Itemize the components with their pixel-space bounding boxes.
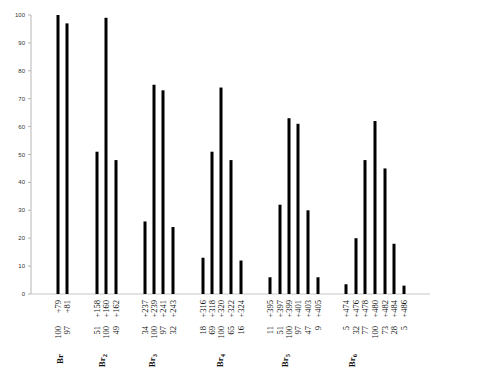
intensity-label: 100 <box>370 326 380 339</box>
mass-label: +324 <box>236 299 246 317</box>
mass-label: +480 <box>370 300 380 318</box>
intensity-label: 9 <box>313 326 323 330</box>
bar-chart: 0102030405060708090100 +79100+8197Br+158… <box>0 0 481 373</box>
bar <box>220 88 223 294</box>
y-tick-label: 70 <box>18 96 25 102</box>
bar <box>57 15 60 294</box>
group-label: Br2 <box>97 354 108 367</box>
group-label: Br <box>55 354 65 364</box>
bar <box>317 277 320 294</box>
intensity-label: 32 <box>168 326 178 335</box>
intensity-label: 100 <box>101 326 111 339</box>
bar <box>345 284 348 294</box>
bar <box>153 85 156 294</box>
y-tick-label: 10 <box>18 263 25 269</box>
bars <box>57 15 406 294</box>
bar <box>374 121 377 294</box>
bar <box>211 152 214 294</box>
group-label: Br6 <box>347 353 358 367</box>
bar <box>297 124 300 294</box>
bar <box>355 238 358 294</box>
intensity-label: 5 <box>399 326 409 330</box>
bar <box>307 210 310 294</box>
group-label: Br3 <box>147 353 158 367</box>
mass-label: +322 <box>226 300 236 318</box>
bar <box>172 227 175 294</box>
mass-label: +484 <box>389 299 399 317</box>
x-axis-labels: +79100+8197Br+15851+160100+16249Br2+2373… <box>53 299 409 367</box>
intensity-label: 5 <box>341 326 351 330</box>
intensity-label: 16 <box>236 326 246 335</box>
y-tick-label: 30 <box>18 207 25 213</box>
intensity-label: 65 <box>226 326 236 335</box>
bar <box>162 90 165 294</box>
bar <box>393 244 396 294</box>
intensity-label: 47 <box>303 326 313 335</box>
y-tick-label: 50 <box>18 152 25 158</box>
bar <box>240 261 243 294</box>
mass-label: +320 <box>216 300 226 318</box>
group-label: Br4 <box>215 353 226 367</box>
bar <box>288 118 291 294</box>
y-tick-label: 90 <box>18 40 25 46</box>
bar <box>364 160 367 294</box>
bar <box>384 168 387 294</box>
mass-label: +474 <box>341 299 351 317</box>
mass-label: +486 <box>399 300 409 318</box>
mass-label: +243 <box>168 300 178 318</box>
intensity-label: 97 <box>293 326 303 335</box>
bar <box>269 277 272 294</box>
bar <box>144 221 147 294</box>
bar <box>230 160 233 294</box>
y-tick-label: 80 <box>18 68 25 74</box>
mass-label: +160 <box>101 300 111 318</box>
intensity-label: 77 <box>360 326 370 335</box>
mass-label: +395 <box>265 300 275 318</box>
bar <box>96 152 99 294</box>
intensity-label: 97 <box>158 326 168 335</box>
intensity-label: 100 <box>216 326 226 339</box>
intensity-label: 28 <box>389 326 399 335</box>
y-tick-label: 60 <box>18 124 25 130</box>
mass-label: +403 <box>303 300 313 318</box>
y-tick-label: 100 <box>15 12 26 18</box>
mass-label: +478 <box>360 300 370 318</box>
bar <box>202 258 205 294</box>
intensity-label: 49 <box>111 326 121 335</box>
mass-label: +401 <box>293 300 303 318</box>
mass-label: +81 <box>62 300 72 313</box>
group-label: Br5 <box>280 353 291 367</box>
bar <box>105 18 108 294</box>
bar <box>403 286 406 294</box>
intensity-label: 97 <box>62 326 72 335</box>
mass-label: +241 <box>158 300 168 318</box>
y-tick-label: 40 <box>18 179 25 185</box>
bar <box>279 205 282 294</box>
intensity-label: 11 <box>265 326 275 334</box>
bar <box>66 23 69 294</box>
bar <box>115 160 118 294</box>
y-tick-label: 20 <box>18 235 25 241</box>
y-tick-label: 0 <box>22 291 26 297</box>
mass-label: +162 <box>111 300 121 318</box>
mass-label: +405 <box>313 300 323 318</box>
